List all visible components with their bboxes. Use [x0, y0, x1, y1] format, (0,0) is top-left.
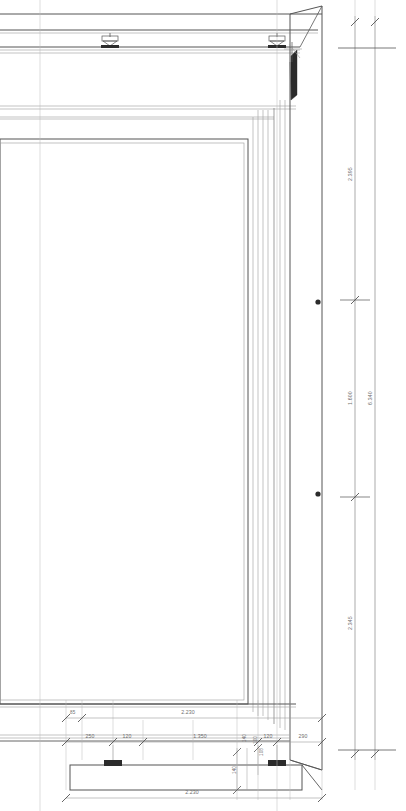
dim-v3-label: 2.345: [347, 616, 353, 630]
column-fixing-point: [315, 299, 320, 304]
dim-v2-label: 1.600: [347, 391, 353, 405]
dim-2230-upper-label: 2.230: [181, 709, 195, 715]
dim-100-label: 100: [253, 736, 258, 744]
dim-v1-label: 2.395: [347, 167, 353, 181]
dim-140b-label: 140: [242, 734, 247, 742]
dim-85-label: 85: [70, 710, 76, 715]
column-fixing-point: [315, 491, 320, 496]
drawing-canvas: 2.395 1.600 2.345 6.340 85 2.230 250 120…: [0, 0, 406, 811]
dim-250-left-label: 250: [85, 733, 94, 739]
dim-120-left-label: 120: [122, 733, 131, 739]
horizontal-dimension-upper: 85 2.230: [62, 709, 326, 722]
dim-108-label: 108: [259, 748, 264, 756]
dim-1350-label: 1.350: [193, 733, 207, 739]
technical-drawing-svg: 2.395 1.600 2.345 6.340 85 2.230 250 120…: [0, 0, 406, 811]
mullion-profile: [253, 100, 285, 730]
dim-120-right-label: 120: [263, 733, 272, 739]
dim-290-label: 290: [298, 733, 307, 739]
dim-2230-bottom-label: 2.230: [185, 789, 199, 795]
dim-140a-label: 140: [232, 766, 237, 774]
base-anchor-block: [104, 760, 122, 766]
corner-top-right: [284, 6, 322, 770]
glazing-panel: [0, 117, 274, 704]
extension-lines: [40, 0, 375, 811]
horizontal-dimension-bottom: 2.230: [62, 789, 326, 802]
ceiling-assembly: [0, 14, 322, 109]
dim-v-total-label: 6.340: [367, 391, 373, 405]
bracket-left: [101, 33, 119, 48]
vertical-dimension-chain: 2.395 1.600 2.345 6.340: [338, 16, 396, 760]
